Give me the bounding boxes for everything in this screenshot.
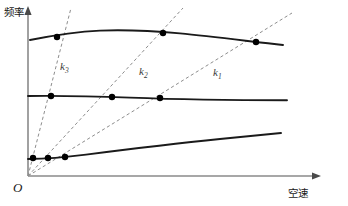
- curve-group: [28, 30, 287, 159]
- ray-k3-label-sub: 3: [64, 66, 69, 75]
- frequency-airspeed-figure: 频率 空速 O k3 k2 k1: [0, 0, 348, 206]
- ray-k2-label: k2: [139, 65, 148, 80]
- ray-k1-label: k1: [213, 66, 222, 81]
- marker-point: [62, 154, 68, 160]
- marker-point: [109, 94, 115, 100]
- curve-top: [30, 30, 283, 45]
- y-axis-arrow: [24, 6, 31, 15]
- x-axis-label: 空速: [288, 187, 309, 199]
- marker-point: [48, 93, 54, 99]
- label-group: 频率 空速 O k3 k2 k1: [4, 6, 309, 199]
- ray-k1-line: [28, 13, 292, 176]
- ray-k2-line: [28, 8, 183, 176]
- x-axis-arrow: [312, 172, 321, 179]
- ray-k3-label: k3: [60, 60, 69, 75]
- ray-k1-label-sub: 1: [218, 72, 222, 81]
- marker-point: [253, 39, 259, 45]
- figure-canvas: 频率 空速 O k3 k2 k1: [0, 0, 348, 206]
- marker-point: [45, 155, 51, 161]
- y-axis-label: 频率: [4, 6, 24, 18]
- marker-point: [157, 95, 163, 101]
- marker-point: [54, 34, 60, 40]
- marker-point: [30, 155, 36, 161]
- origin-label: O: [13, 180, 23, 195]
- marker-point: [160, 30, 166, 36]
- ray-k2-label-sub: 2: [144, 71, 148, 80]
